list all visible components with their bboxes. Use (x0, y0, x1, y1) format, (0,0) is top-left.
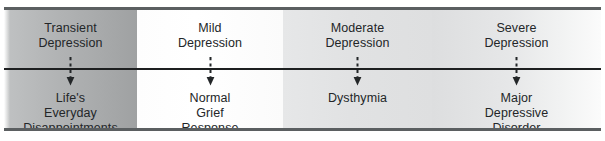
outcome-label: Major Depressive Disorder (485, 91, 549, 131)
severity-cell: Moderate Depression (283, 10, 432, 68)
outcome-cell: Major Depressive Disorder (432, 70, 601, 128)
severity-cell: Mild Depression (137, 10, 283, 68)
depression-continuum-figure: Transient Depression Life's Everyday Dis… (0, 0, 605, 141)
outcome-label: Normal Grief Response (181, 91, 238, 131)
continuum-band: Transient Depression Life's Everyday Dis… (4, 7, 601, 131)
outcome-cell: Dysthymia (283, 70, 432, 128)
severity-cell: Severe Depression (432, 10, 601, 68)
continuum-column-moderate: Moderate Depression Dysthymia (283, 10, 432, 128)
severity-label: Transient Depression (38, 21, 102, 51)
severity-cell: Transient Depression (4, 10, 137, 68)
severity-label: Severe Depression (484, 21, 548, 51)
outcome-label: Dysthymia (328, 91, 387, 106)
continuum-column-mild: Mild Depression Normal Grief Response (137, 10, 283, 128)
continuum-column-transient: Transient Depression Life's Everyday Dis… (4, 10, 137, 128)
continuum-columns: Transient Depression Life's Everyday Dis… (4, 10, 601, 128)
outcome-cell: Normal Grief Response (137, 70, 283, 128)
continuum-column-severe: Severe Depression Major Depressive Disor… (432, 10, 601, 128)
severity-label: Moderate Depression (325, 21, 389, 51)
outcome-label: Life's Everyday Disappointments (23, 91, 118, 131)
severity-label: Mild Depression (178, 21, 242, 51)
outcome-cell: Life's Everyday Disappointments (4, 70, 137, 128)
